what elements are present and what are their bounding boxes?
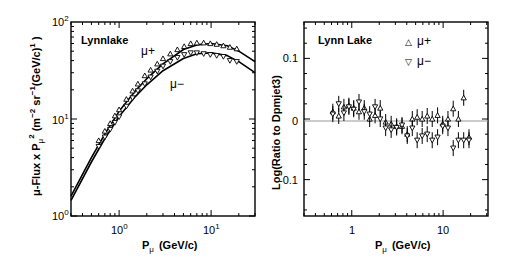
right-panel: Lynn Lake △ μ+ ▽ μ− 0.1 0 -0.1 1 10 Pμ(G… (270, 22, 488, 254)
right-axis-ticks (304, 22, 488, 216)
svg-text:10: 10 (437, 224, 449, 236)
legend-mu-plus-marker: △ (405, 37, 412, 47)
left-xtick-labels: 100 101 (111, 222, 220, 236)
svg-text:0: 0 (292, 115, 298, 127)
left-plot-frame (71, 22, 255, 216)
mu-plus-label: μ+ (141, 44, 155, 58)
right-y-axis-label: Log(Ratio to Dpmjet3) (270, 75, 282, 190)
right-plot-frame (304, 22, 488, 216)
right-data-points (330, 90, 471, 156)
right-x-axis-label: Pμ(GeV/c) (375, 239, 431, 254)
svg-text:101: 101 (203, 222, 220, 236)
svg-text:100: 100 (52, 208, 69, 222)
legend-mu-minus-label: μ− (417, 54, 431, 68)
right-panel-title: Lynn Lake (318, 34, 372, 46)
right-xtick-labels: 1 10 (349, 224, 449, 236)
left-panel: Lynnlake μ+ μ− 102 101 100 100 101 Pμ(Ge… (27, 14, 255, 254)
left-x-axis-label: Pμ(GeV/c) (142, 239, 198, 254)
left-y-axis-label: μ-Flux x Pμ2 (m−2 sr−1(GeV/c)1 ) (27, 36, 45, 196)
left-ytick-labels: 102 101 100 (52, 14, 69, 222)
mu-minus-label: μ− (170, 77, 184, 91)
legend-mu-minus-marker: ▽ (405, 57, 412, 67)
svg-text:102: 102 (52, 14, 69, 28)
left-axis-ticks (71, 22, 255, 216)
left-panel-title: Lynnlake (81, 34, 128, 46)
legend-mu-plus-label: μ+ (417, 34, 431, 48)
svg-text:0.1: 0.1 (283, 52, 298, 64)
svg-text:1: 1 (349, 224, 355, 236)
legend: △ μ+ ▽ μ− (405, 34, 431, 68)
left-data-points (96, 40, 239, 149)
figure: Lynnlake μ+ μ− 102 101 100 100 101 Pμ(Ge… (0, 0, 511, 263)
svg-text:100: 100 (111, 222, 128, 236)
svg-text:101: 101 (52, 112, 69, 126)
